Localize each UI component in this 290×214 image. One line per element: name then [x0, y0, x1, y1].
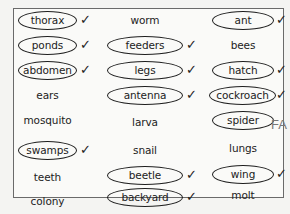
word-item: hatch [212, 61, 274, 79]
word-label: mosquito [23, 114, 71, 126]
word-item: backyard [107, 188, 183, 206]
teacher-annotation: FA [271, 117, 287, 132]
word-label: cockroach [216, 89, 269, 101]
word-item: larva [107, 113, 183, 131]
word-item: teeth [18, 168, 77, 186]
word-label: hatch [228, 64, 257, 76]
word-item: abdomen [18, 61, 77, 79]
word-item: beetle [107, 166, 183, 184]
word-item: ant [212, 11, 274, 29]
word-item: ears [18, 86, 77, 104]
word-label: lungs [229, 142, 257, 154]
word-label: feeders [126, 39, 165, 51]
word-item: thorax [18, 11, 77, 29]
word-item: feeders [107, 36, 183, 54]
word-label: backyard [121, 191, 168, 203]
word-item: swamps [18, 141, 77, 159]
word-label: teeth [34, 171, 61, 183]
word-item: molt [212, 186, 274, 204]
word-label: ant [235, 14, 252, 26]
word-label: legs [134, 64, 155, 76]
check-mark-icon: ✓ [276, 88, 287, 101]
word-label: ponds [32, 39, 63, 51]
word-item: bees [212, 36, 274, 54]
word-label: bees [231, 39, 256, 51]
check-mark-icon: ✓ [80, 38, 91, 51]
word-label: snail [133, 144, 157, 156]
check-mark-icon: ✓ [276, 13, 287, 26]
word-label: abdomen [23, 64, 72, 76]
check-mark-icon: ✓ [276, 63, 287, 76]
word-label: molt [231, 189, 254, 201]
word-item: snail [107, 141, 183, 159]
word-item: ponds [18, 36, 77, 54]
word-label: thorax [31, 14, 65, 26]
word-label: ears [36, 89, 58, 101]
check-mark-icon: ✓ [186, 190, 197, 203]
word-item: mosquito [13, 111, 82, 129]
word-item: cockroach [209, 86, 276, 104]
word-item: lungs [212, 139, 274, 157]
check-mark-icon: ✓ [276, 167, 287, 180]
check-mark-icon: ✓ [186, 88, 197, 101]
word-label: colony [31, 195, 65, 207]
word-item: antenna [107, 86, 183, 104]
check-mark-icon: ✓ [186, 168, 197, 181]
word-item: legs [107, 61, 183, 79]
word-label: larva [132, 116, 158, 128]
check-mark-icon: ✓ [186, 38, 197, 51]
check-mark-icon: ✓ [80, 13, 91, 26]
check-mark-icon: ✓ [80, 63, 91, 76]
check-mark-icon: ✓ [80, 143, 91, 156]
check-mark-icon: ✓ [186, 63, 197, 76]
word-item: wing [212, 165, 274, 183]
word-item: colony [18, 192, 77, 210]
word-label: swamps [26, 144, 68, 156]
word-item: spider [212, 111, 274, 129]
word-label: spider [227, 114, 259, 126]
word-label: worm [131, 14, 160, 26]
word-item: worm [107, 11, 183, 29]
word-label: antenna [124, 89, 167, 101]
word-label: beetle [129, 169, 161, 181]
word-label: wing [231, 168, 255, 180]
